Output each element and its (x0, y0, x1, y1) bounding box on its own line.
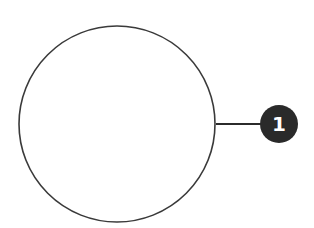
diagram-canvas: 1 (0, 0, 314, 228)
main-circle (19, 26, 215, 222)
callout-badge: 1 (260, 105, 298, 143)
callout-number: 1 (272, 112, 286, 136)
